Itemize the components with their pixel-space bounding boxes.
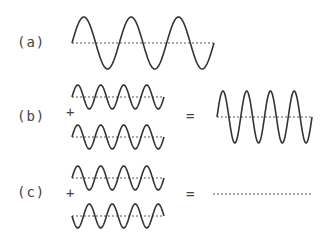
wave-c-top	[72, 166, 164, 190]
label-b: (b)	[17, 108, 45, 124]
plus-sign-c: +	[66, 185, 74, 201]
wave-b-bottom	[72, 125, 164, 149]
wave-a	[72, 17, 214, 69]
wave-b-sum	[217, 91, 312, 143]
equals-sign-b: =	[186, 108, 194, 124]
label-c: (c)	[17, 184, 45, 200]
wave-b-top	[72, 85, 164, 109]
wave-c-bottom	[72, 204, 164, 228]
equals-sign-c: =	[186, 186, 194, 202]
label-a: (a)	[17, 34, 45, 50]
plus-sign-b: +	[66, 104, 74, 120]
superposition-diagram	[0, 0, 328, 240]
